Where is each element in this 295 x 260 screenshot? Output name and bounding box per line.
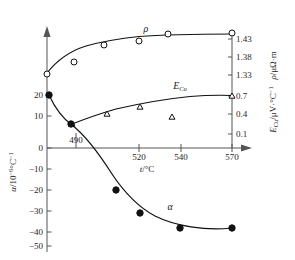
rho-point xyxy=(229,30,235,36)
left-axis xyxy=(43,26,50,252)
left-tick-minus-40: −40 xyxy=(29,227,44,237)
svg-text:α/10−6°C−1: α/10−6°C−1 xyxy=(7,152,18,192)
left-axis-title-tail-exp: −1 xyxy=(7,152,14,159)
alpha-series-label: α xyxy=(167,201,173,212)
x-axis-arrow xyxy=(241,145,252,152)
alpha-point xyxy=(229,225,235,231)
alpha-point xyxy=(113,187,119,193)
alpha-point xyxy=(68,121,74,127)
right-axis-ticks xyxy=(228,39,232,134)
rho-point xyxy=(101,42,107,48)
figure-container: 20 10 0 −10 −20 −30 −40 −50 1.43 1.38 1.… xyxy=(0,0,295,260)
rho-point xyxy=(44,71,50,77)
left-tick-minus-20: −20 xyxy=(29,185,44,195)
left-axis-arrow xyxy=(43,26,50,37)
left-axis-title: α/10−6°C−1 xyxy=(7,152,18,192)
right-tick-ecu-01: 0.1 xyxy=(236,129,247,139)
x-tick-490: 490 xyxy=(69,135,83,145)
chart-plot: 20 10 0 −10 −20 −30 −40 −50 1.43 1.38 1.… xyxy=(0,0,295,260)
series-ecu: ECu xyxy=(69,80,235,126)
series-rho: ρ xyxy=(44,23,235,77)
rho-point xyxy=(136,38,142,44)
ecu-curve-line xyxy=(72,95,232,124)
svg-text:ECu/μV·°C−1 ρ/μΩ·m: ECu/μV·°C−1 ρ/μΩ·m xyxy=(267,51,279,134)
ecu-series-label: ECu xyxy=(172,80,187,92)
right-tick-rho-138: 1.38 xyxy=(236,52,252,62)
x-tick-540: 540 xyxy=(174,152,188,162)
left-tick-20: 20 xyxy=(34,90,44,100)
left-tick-minus-10: −10 xyxy=(29,164,44,174)
left-axis-ticks xyxy=(47,95,52,246)
x-tick-570: 570 xyxy=(225,152,239,162)
right-tick-rho-133: 1.33 xyxy=(236,70,252,80)
left-tick-minus-30: −30 xyxy=(29,206,44,216)
right-tick-ecu-04: 0.4 xyxy=(236,109,248,119)
right-axis-rho-unit: /μΩ·m xyxy=(268,51,278,75)
left-tick-10: 10 xyxy=(34,111,44,121)
alpha-point xyxy=(137,210,143,216)
left-tick-0: 0 xyxy=(39,143,44,153)
right-tick-rho-143: 1.43 xyxy=(236,34,252,44)
x-axis-title: t/°C xyxy=(140,164,155,174)
right-axis-ecu-exp: −1 xyxy=(267,86,274,93)
x-tick-520: 520 xyxy=(132,152,146,162)
ecu-label-sub: Cu xyxy=(179,85,187,92)
rho-point xyxy=(165,31,171,37)
alpha-point xyxy=(46,92,52,98)
right-axis-ecu-unit: /μV·°C xyxy=(268,93,278,119)
left-axis-title-tail: °C xyxy=(8,159,18,169)
ecu-point-outlier xyxy=(169,114,175,119)
left-tick-minus-50: −50 xyxy=(29,241,44,251)
ecu-label-base: E xyxy=(172,80,179,91)
rho-point xyxy=(71,59,77,65)
rho-series-label: ρ xyxy=(143,23,149,34)
x-axis xyxy=(47,145,252,152)
right-axis-title: ECu/μV·°C−1 ρ/μΩ·m xyxy=(267,51,279,134)
alpha-point xyxy=(177,225,183,231)
x-axis-ticks xyxy=(76,133,232,152)
svg-text:t/°C: t/°C xyxy=(140,164,155,174)
left-axis-title-rest: /10 xyxy=(8,175,18,187)
x-axis-title-unit: /°C xyxy=(142,164,154,174)
right-tick-ecu-07: 0.7 xyxy=(236,91,248,101)
